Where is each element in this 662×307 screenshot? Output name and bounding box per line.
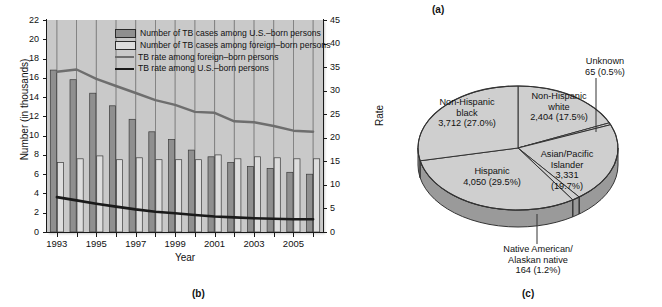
chart-bar [77,159,83,232]
legend-item-foreign_cases: Number of TB cases among foreign–born pe… [115,40,330,51]
y-axis-left-tick [43,78,47,79]
y-axis-right-tick-label: 0 [330,228,354,237]
pie-label-hispanic: Hispanic 4,050 (29.5%) [437,166,547,187]
x-axis-tick [96,233,97,237]
x-axis-tick-label: 2003 [234,239,274,249]
x-axis-tick [136,233,137,237]
chart-bar [129,119,135,232]
y-axis-left-tick [43,155,47,156]
legend-item-label: Number of TB cases among foreign–born pe… [140,40,330,50]
chart-bar [247,167,253,233]
x-axis-tick-label: 2005 [273,239,313,249]
x-axis-tick [254,233,255,237]
pie-label-value: 164 (1.2%) [473,265,603,276]
chart-bar [195,160,201,232]
chart-bar [50,70,56,232]
y-axis-right-tick [323,185,327,186]
x-axis-tick [293,233,294,237]
chart-bar [97,156,103,232]
x-axis-tick [313,233,314,237]
pie-label-line1: Unknown [555,56,655,67]
y-axis-left-tick [43,174,47,175]
legend-item-label: TB rate among U.S.–born persons [138,63,269,73]
x-axis-tick [77,233,78,237]
y-axis-right-tick-label: 15 [330,157,354,166]
y-axis-left-tick [43,193,47,194]
x-axis-tick [57,233,58,237]
chart-bar [188,150,194,232]
legend-item-us_cases: Number of TB cases among U.S.–born perso… [115,28,330,39]
legend-swatch-line-black [115,68,134,70]
legend-item-label: TB rate among foreign–born persons [138,52,278,62]
y-axis-right-tick-label: 10 [330,180,354,189]
y-axis-title: Number (in thousands) [19,40,30,180]
pie-label-non-hispanic-white: Non-Hispanic white 2,404 (17.5%) [506,91,612,123]
pie-label-line2: Alaskan native [473,255,603,266]
y-axis-left-tick [43,39,47,40]
y-axis-right-tick-label: 40 [330,39,354,48]
x-axis-tick [274,233,275,237]
pie-label-value: 65 (0.5%) [555,67,655,78]
pie-label-native-american: Native American/ Alaskan native 164 (1.2… [473,244,603,276]
chart-bar [176,160,182,232]
chart-legend: Number of TB cases among U.S.–born perso… [115,28,330,75]
legend-swatch-line-gray [115,56,134,58]
chart-bar [156,160,162,232]
figure-label-b: (b) [192,288,205,299]
chart-bar [228,163,234,232]
chart-bar [109,106,115,232]
chart-bar [287,172,293,232]
y-axis-right-tick-label: 5 [330,204,354,213]
x-axis-tick [234,233,235,237]
y-axis-left-tick [43,213,47,214]
chart-bar [314,159,320,232]
pie-label-line1: Native American/ [473,244,603,255]
y-axis-left-tick-label: 22 [15,16,39,25]
x-axis-tick [195,233,196,237]
chart-bar [254,157,260,232]
y-axis-right-tick [323,91,327,92]
y-axis-right-tick [323,208,327,209]
y-axis-left-tick-label: 2 [15,208,39,217]
pie-label-line1: Asian/Pacific [517,149,617,160]
tb-cases-pie-chart: Non-Hispanic black 3,712 (27.0%) Non-His… [400,0,662,307]
x-axis-tick [155,233,156,237]
pie-label-line1: Hispanic [437,166,547,177]
pie-label-value: 4,050 (29.5%) [437,177,547,188]
pie-label-line2: white [506,102,612,113]
y-axis-right-tick [323,138,327,139]
y-axis-left-tick [43,136,47,137]
chart-bar [294,159,300,232]
chart-bar [136,158,142,232]
y-axis-right-tick [323,161,327,162]
chart-bar [267,168,273,232]
chart-bar [274,158,280,232]
x-axis-tick-label: 2001 [195,239,235,249]
x-axis-tick-label: 1997 [116,239,156,249]
legend-item-us_rate: TB rate among U.S.–born persons [115,63,330,74]
pie-label-unknown: Unknown 65 (0.5%) [555,56,655,77]
y-axis-right-tick-label: 45 [330,16,354,25]
y-axis-left-tick [43,59,47,60]
chart-bar [149,132,155,232]
figure-label-a: (a) [432,4,444,15]
chart-bar [169,140,175,233]
x-axis-title: Year [46,252,324,263]
chart-bar [215,155,221,232]
x-axis-tick [215,233,216,237]
chart-bar [307,174,313,232]
x-axis-tick [175,233,176,237]
y-axis-left-tick-label: 0 [15,228,39,237]
legend-swatch-bar-light [115,41,136,50]
x-axis-tick [116,233,117,237]
y-axis-left-tick [43,20,47,21]
y-axis-right-tick [323,114,327,115]
x-axis-tick-label: 1999 [155,239,195,249]
y-axis-right-tick [323,20,327,21]
chart-bar [116,160,122,232]
y-axis-right-tick-label: 20 [330,133,354,142]
legend-swatch-bar-dark [115,29,136,38]
legend-item-label: Number of TB cases among U.S.–born perso… [140,28,321,38]
y-axis-left-tick-label: 4 [15,189,39,198]
y-axis-left [46,19,47,233]
